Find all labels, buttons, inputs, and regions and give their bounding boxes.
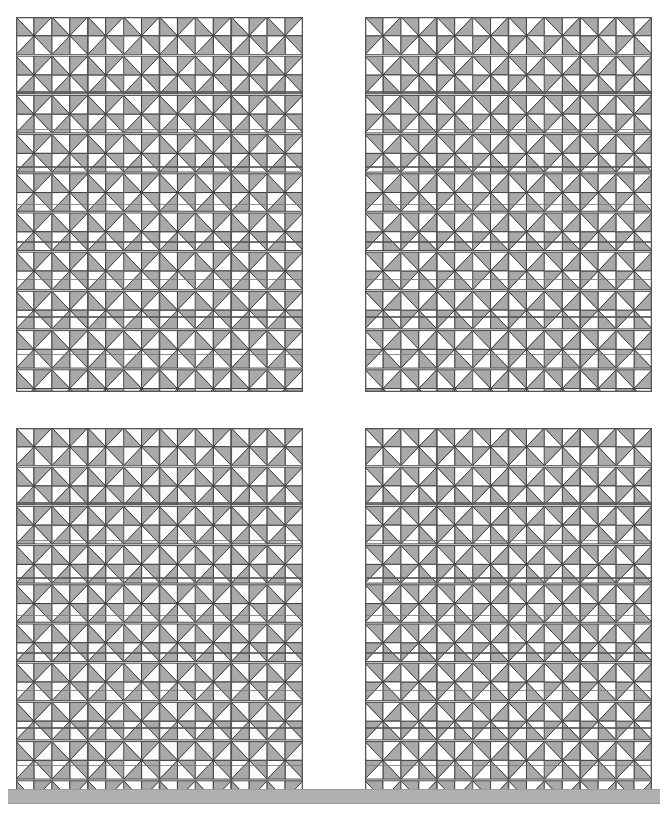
panel-top-right-canvas (365, 17, 652, 392)
panel-top-right (365, 17, 652, 392)
panel-bottom-right-canvas (365, 428, 652, 803)
panel-bottom-right (365, 428, 652, 803)
panel-top-left-canvas (16, 17, 303, 392)
panel-top-left (16, 17, 303, 392)
panel-bottom-left (16, 428, 303, 803)
bottom-rule-bar (8, 789, 660, 804)
panel-bottom-left-canvas (16, 428, 303, 803)
figure-root (0, 0, 668, 816)
